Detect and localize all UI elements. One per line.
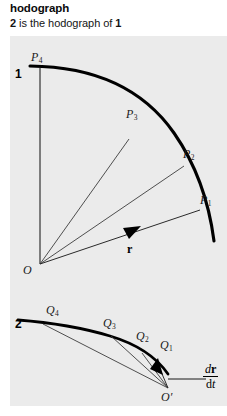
diagram-2-index-label: 2 (15, 318, 22, 330)
radius-line-p2 (40, 166, 184, 264)
point-label-q3: Q3 (103, 317, 115, 331)
vector-r-arrowhead (123, 226, 141, 239)
point-label-p4: P4 (31, 51, 42, 65)
point-label-q1: Q1 (160, 339, 172, 353)
point-label-q1-letter: Q (160, 338, 169, 352)
derivative-dr-dt-label: dr dt (203, 363, 218, 390)
hodograph-diagrams-svg (10, 36, 227, 406)
diagram-1-group (30, 66, 214, 264)
point-label-p1-letter: P (200, 193, 207, 207)
derivative-numerator: dr (203, 363, 218, 376)
point-label-q3-sub: 3 (112, 322, 116, 331)
point-label-p2-sub: 2 (191, 153, 195, 162)
entry-subtitle-text: is the hodograph of (16, 17, 115, 29)
entry-header: hodograph 2 is the hodograph of 1 (10, 2, 222, 30)
hodograph-entry: hodograph 2 is the hodograph of 1 (0, 0, 227, 416)
figure-panel: 1 2 P4 P3 P2 P1 O r Q4 Q3 Q2 Q1 O′ dr dt (10, 36, 227, 406)
point-label-q2-sub: 2 (145, 335, 149, 344)
point-label-q4-letter: Q (46, 303, 55, 317)
point-label-p2: P2 (183, 148, 194, 162)
origin-label-o: O (23, 264, 32, 276)
radius-vector-r-line (40, 210, 200, 264)
derivative-numerator-r: r (211, 362, 216, 376)
entry-subtitle: 2 is the hodograph of 1 (10, 16, 222, 30)
radius-line-p3 (40, 139, 129, 264)
entry-subtitle-ref-1: 1 (115, 17, 121, 29)
point-label-q2: Q2 (136, 330, 148, 344)
entry-title: hodograph (10, 2, 222, 15)
point-label-p3-letter: P (126, 107, 133, 121)
derivative-denominator: dt (203, 377, 218, 390)
point-label-q4-sub: 4 (55, 309, 59, 318)
hodograph-curve-2 (18, 320, 168, 374)
point-label-q2-letter: Q (136, 329, 145, 343)
diagram-1-index-label: 1 (15, 68, 22, 80)
point-label-p1-sub: 1 (208, 199, 212, 208)
derivative-denominator-t: t (212, 377, 215, 391)
point-label-p4-letter: P (31, 50, 38, 64)
vector-r-label: r (127, 243, 132, 255)
point-label-p3-sub: 3 (134, 113, 138, 122)
point-label-p2-letter: P (183, 147, 190, 161)
point-label-p3: P3 (126, 108, 137, 122)
point-label-q4: Q4 (46, 304, 58, 318)
point-label-q1-sub: 1 (169, 344, 173, 353)
point-label-p1: P1 (200, 194, 211, 208)
point-label-p4-sub: 4 (39, 56, 43, 65)
point-label-q3-letter: Q (103, 316, 112, 330)
origin-label-o-prime: O′ (161, 391, 172, 403)
